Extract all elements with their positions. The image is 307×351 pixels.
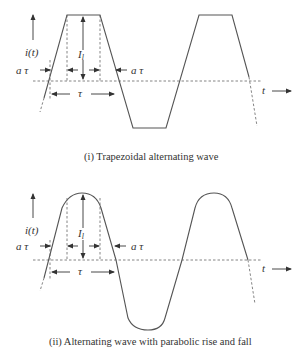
tau-label: τ bbox=[78, 87, 83, 99]
amplitude-label: Il bbox=[77, 227, 85, 241]
rise-extension-dashed bbox=[40, 278, 44, 291]
caption: (i) Trapezoidal alternating wave bbox=[84, 151, 219, 163]
a-tau-left-label: a τ bbox=[16, 64, 29, 76]
rise-extension-dashed bbox=[40, 98, 44, 112]
waveform-figure: t i(t) Il a τ a τ τ (i) Trapezoidal alte… bbox=[0, 0, 307, 351]
fall-extension-dashed bbox=[248, 260, 255, 304]
trapezoid-wave bbox=[44, 15, 249, 128]
a-tau-left-label: a τ bbox=[16, 240, 29, 252]
tau-label: τ bbox=[78, 265, 83, 277]
panel-trapezoidal: t i(t) Il a τ a τ τ (i) Trapezoidal alte… bbox=[16, 15, 291, 163]
parabolic-wave bbox=[44, 193, 248, 330]
a-tau-right-label: a τ bbox=[131, 240, 144, 252]
i-t-label: i(t) bbox=[25, 224, 39, 237]
panel-parabolic: t i(t) Il a τ a τ τ (ii) Alternating wav… bbox=[16, 193, 291, 348]
t-label: t bbox=[262, 262, 266, 274]
i-t-label: i(t) bbox=[25, 46, 39, 59]
caption: (ii) Alternating wave with parabolic ris… bbox=[49, 336, 252, 348]
fall-extension-dashed bbox=[249, 77, 257, 126]
a-tau-right-label: a τ bbox=[131, 64, 144, 76]
t-label: t bbox=[262, 84, 266, 96]
amplitude-label: Il bbox=[77, 48, 85, 62]
